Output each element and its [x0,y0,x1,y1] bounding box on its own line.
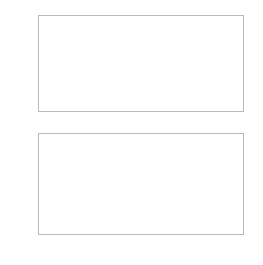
chart-panel-bottom [0,126,263,265]
chart-panel-top [0,0,263,126]
plot-area-top [0,0,263,126]
figure-canvas [0,0,263,265]
plot-area-bottom [0,126,263,265]
